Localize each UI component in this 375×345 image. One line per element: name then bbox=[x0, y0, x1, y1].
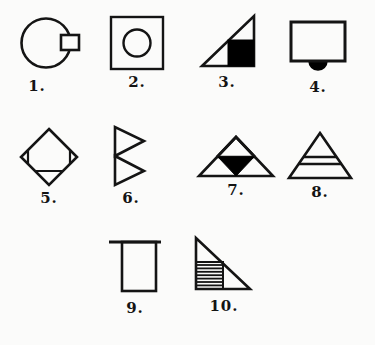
figure-6-label: 6. bbox=[122, 191, 140, 206]
figure-10-label: 10. bbox=[209, 299, 238, 314]
figure-3-label: 3. bbox=[218, 75, 236, 90]
triangle-with-horizontal-lines-icon bbox=[286, 130, 354, 182]
figure-5: 5. bbox=[18, 126, 80, 206]
circle-with-rectangle-icon bbox=[18, 14, 82, 76]
rectangle-with-black-semicircle-icon bbox=[288, 18, 348, 74]
figure-9-label: 9. bbox=[126, 301, 144, 316]
figure-1-label: 1. bbox=[28, 79, 46, 94]
figure-10: 10. bbox=[192, 234, 256, 314]
figure-7-label: 7. bbox=[227, 183, 245, 198]
figure-9: 9. bbox=[106, 236, 164, 316]
triangle-with-hatched-square-icon bbox=[192, 234, 256, 294]
figure-1: 1. bbox=[18, 14, 82, 94]
figure-8-label: 8. bbox=[311, 185, 329, 200]
figure-5-label: 5. bbox=[40, 191, 58, 206]
figure-2-label: 2. bbox=[128, 75, 146, 90]
figure-2: 2. bbox=[108, 14, 166, 90]
triangle-with-black-inverted-triangle-icon bbox=[196, 134, 276, 180]
figure-4: 4. bbox=[288, 18, 348, 95]
figure-8: 8. bbox=[286, 130, 354, 200]
square-with-circle-icon bbox=[108, 14, 166, 72]
diamond-with-cut-corners-icon bbox=[18, 126, 80, 188]
triangle-with-black-square-icon bbox=[198, 12, 260, 72]
figure-sheet: 1. 2. 3. 4. 5. bbox=[0, 0, 375, 345]
figure-7: 7. bbox=[196, 134, 276, 198]
two-stacked-triangles-icon bbox=[110, 124, 160, 188]
figure-3: 3. bbox=[198, 12, 260, 90]
rectangle-with-top-line-icon bbox=[106, 236, 164, 296]
figure-4-label: 4. bbox=[309, 80, 327, 95]
figure-6: 6. bbox=[110, 124, 160, 206]
